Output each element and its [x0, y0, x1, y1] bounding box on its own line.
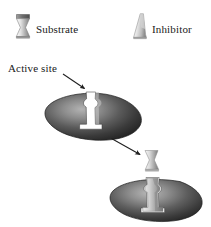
active-site-label: Active site — [8, 62, 57, 74]
binding-arrow — [112, 139, 141, 155]
hourglass-shape-icon — [16, 15, 29, 39]
enzyme-diagram-figure: Substrate Inhibitor Active site — [0, 0, 211, 227]
binding-arrow-icon — [112, 139, 141, 155]
enzyme-empty-active-site — [45, 92, 141, 140]
diagram-canvas: Substrate Inhibitor Active site — [0, 0, 211, 227]
enzyme-substrate-bound — [110, 151, 202, 222]
wedge-shape-icon — [134, 14, 147, 39]
legend-item-substrate: Substrate — [16, 15, 78, 39]
legend-label-inhibitor: Inhibitor — [152, 23, 192, 35]
legend-item-inhibitor: Inhibitor — [134, 14, 192, 39]
active-site-annotation: Active site — [8, 62, 85, 89]
active-site-pointer-arrow-icon — [63, 74, 85, 89]
legend-label-substrate: Substrate — [36, 23, 78, 35]
substrate-molecule-bound — [145, 151, 159, 172]
